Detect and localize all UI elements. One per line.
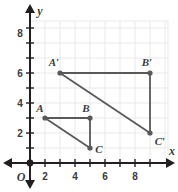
y-axis-down-arrow [25,180,35,189]
origin-label: O [17,170,26,184]
x-axis-label: x [168,144,175,158]
point-b [87,115,92,120]
label-a-prime: A′ [48,56,59,68]
x-axis-right-arrow [166,158,175,168]
origin-point [27,160,34,167]
point-c [87,145,92,150]
coordinate-plane-figure: 2 4 6 8 2 4 6 8 y x O A B C A′ B′ C′ [0,0,178,192]
point-a [42,115,47,120]
x-tick-label-4: 4 [72,171,78,182]
y-tick-label-2: 2 [17,128,23,139]
x-tick-label-8: 8 [132,171,138,182]
label-c-prime: C′ [155,135,165,147]
label-c: C [95,143,103,155]
x-axis-left-arrow [3,158,12,168]
point-c-prime [147,130,152,135]
y-axis-label: y [35,4,43,18]
y-tick-label-8: 8 [17,28,23,39]
x-tick-label-2: 2 [42,171,48,182]
label-a: A [35,102,43,114]
point-b-prime [147,70,152,75]
label-b-prime: B′ [141,56,152,68]
x-tick-label-6: 6 [102,171,108,182]
coordinate-plane-svg: 2 4 6 8 2 4 6 8 y x O A B C A′ B′ C′ [0,0,178,192]
y-tick-label-4: 4 [17,98,23,109]
grid-lines [30,21,168,163]
y-axis-up-arrow [25,4,35,13]
point-a-prime [57,70,62,75]
y-tick-label-6: 6 [17,68,23,79]
label-b: B [81,102,89,114]
